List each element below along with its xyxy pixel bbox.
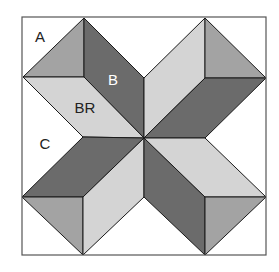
label-b: B (108, 72, 118, 87)
quilt-block-diagram: A B BR C (0, 0, 279, 272)
label-br: BR (75, 100, 96, 115)
label-a: A (35, 29, 45, 44)
label-c: C (40, 136, 51, 151)
